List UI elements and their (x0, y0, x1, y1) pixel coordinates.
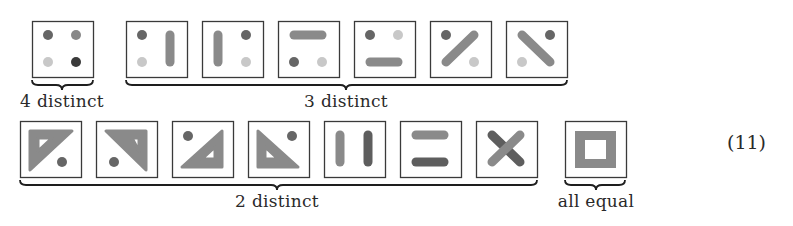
tile-dots-left-bar-right (127, 22, 188, 78)
group-label-3-distinct: 3 distinct (304, 93, 388, 110)
diagram-canvas (0, 0, 793, 226)
tile-square-ring (566, 122, 627, 178)
underbrace-3 (565, 180, 625, 190)
tile-tri-tr (97, 122, 158, 178)
group-label-2-distinct: 2 distinct (235, 193, 319, 210)
tile-tri-tl (21, 122, 82, 178)
tile-tri-bl (249, 122, 310, 178)
tile-two-hbars (401, 122, 462, 178)
tile-dots-top-bar-bottom (355, 22, 416, 78)
tile-four-dots (33, 22, 94, 78)
underbrace-1 (126, 80, 567, 90)
figure: 4 distinct 3 distinct 2 distinct all equ… (0, 0, 793, 226)
tile-two-vbars (325, 122, 386, 178)
group-label-4-distinct: 4 distinct (20, 93, 104, 110)
group-label-all-equal: all equal (558, 193, 635, 210)
tile-tri-br (173, 122, 234, 178)
tile-cross (477, 122, 538, 178)
equation-number: (11) (727, 133, 766, 152)
underbrace-0 (32, 80, 93, 90)
tile-diag-down (507, 22, 568, 78)
tile-diag-up (431, 22, 492, 78)
tile-bar-top-dots-bottom (279, 22, 340, 78)
tile-bar-left-dots-right (203, 22, 264, 78)
underbrace-2 (20, 180, 537, 190)
